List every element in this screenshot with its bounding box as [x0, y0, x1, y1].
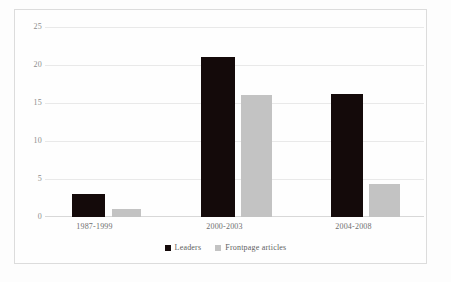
plot-area [45, 27, 424, 217]
x-tick-label-1987-1999: 1987-1999 [47, 223, 142, 231]
y-tick-label-25: 25 [16, 23, 42, 31]
bar-leaders-2000-2003 [201, 57, 235, 217]
y-tick-label-5: 5 [16, 175, 42, 183]
bar-frontpage-2000-2003 [241, 95, 272, 217]
y-tick-label-10: 10 [16, 137, 42, 145]
gridline-25 [45, 27, 424, 28]
x-tick-label-2004-2008: 2004-2008 [306, 223, 401, 231]
y-tick-label-15: 15 [16, 99, 42, 107]
y-tick-label-0: 0 [16, 213, 42, 221]
bar-leaders-2004-2008 [331, 94, 363, 217]
bar-frontpage-1987-1999 [112, 209, 141, 217]
bar-leaders-1987-1999 [72, 194, 105, 217]
bar-frontpage-2004-2008 [369, 184, 400, 217]
y-tick-label-20: 20 [16, 61, 42, 69]
y-axis: 25 20 15 10 5 0 [14, 27, 42, 217]
bar-chart-figure: 25 20 15 10 5 0 1987-1999 2000-2003 2004… [0, 0, 451, 282]
x-tick-label-2000-2003: 2000-2003 [177, 223, 272, 231]
